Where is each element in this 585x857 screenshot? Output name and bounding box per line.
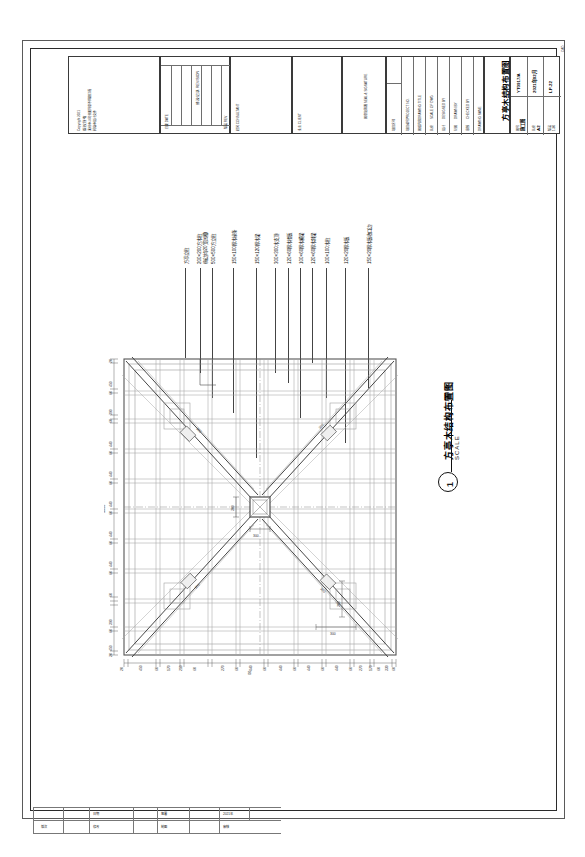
detail-number-text: 1 bbox=[445, 482, 455, 487]
revision-col-right: 版次 REV bbox=[225, 116, 228, 129]
project-row-2-cn: 图纸内容 bbox=[419, 119, 422, 131]
svg-text:170: 170 bbox=[369, 665, 373, 671]
project-row-0-cn: 项目名称 bbox=[393, 119, 396, 131]
callout-c7-label: 300×300木支顶 bbox=[273, 234, 279, 264]
svg-text:60: 60 bbox=[293, 667, 297, 671]
svg-text:440: 440 bbox=[109, 501, 113, 507]
callout-c12-label: 120×20厚木板 bbox=[343, 237, 349, 264]
titleblock-consultant-cell: 顾问 CONSULTANT bbox=[230, 56, 292, 134]
client-label: 业主 CLIENT bbox=[299, 113, 302, 131]
hip-dim-3: 300 bbox=[194, 583, 201, 590]
drawing-scale-value: 1:30 bbox=[444, 386, 450, 402]
callout-c1-label: 方亭立柱 bbox=[183, 248, 189, 264]
revision-cell-r1c3: 审核 bbox=[223, 824, 229, 829]
titleblock-drawing-name-cell: 方亭木结构布置图 bbox=[484, 56, 510, 134]
svg-text:60: 60 bbox=[263, 667, 267, 671]
callout-c4-label: 500×500方立柱 bbox=[210, 234, 216, 264]
svg-text:60: 60 bbox=[349, 667, 353, 671]
drawing-sheet: CAD Copyright 2021 版权所有 未经本公司书面同意不得翻印或 转… bbox=[0, 0, 585, 857]
svg-text:60: 60 bbox=[109, 541, 113, 545]
revision-signoff-table: 日期 签署 2021年 版次 修改 制图 审核 bbox=[33, 807, 281, 833]
svg-text:440: 440 bbox=[109, 561, 113, 567]
callout-c3-label: (每边均20宽凹槽) bbox=[202, 232, 208, 264]
meta-1-value: 施工图 bbox=[521, 119, 525, 131]
svg-text:450: 450 bbox=[139, 665, 143, 671]
meta-0-value: YT0917/A bbox=[517, 73, 521, 93]
meta-5-value: A2 bbox=[537, 125, 541, 131]
drawing-name-en: DRAWING NAME bbox=[479, 106, 482, 131]
notes-line-3: 转载本设计文件 bbox=[94, 110, 97, 131]
svg-text:60: 60 bbox=[109, 419, 113, 423]
svg-text:60: 60 bbox=[321, 667, 325, 671]
svg-text:450: 450 bbox=[109, 381, 113, 387]
project-row-5-en: DRAWN BY bbox=[455, 102, 458, 119]
svg-text:440: 440 bbox=[249, 665, 253, 671]
callout-c10-label: 120×60厚木斜梁 bbox=[310, 233, 316, 264]
svg-text:440: 440 bbox=[279, 665, 283, 671]
callout-c8-label: 120×60厚木楼板 bbox=[286, 233, 292, 264]
project-row-6-en: CHECKED BY bbox=[467, 99, 470, 119]
svg-text:390: 390 bbox=[109, 409, 113, 415]
titleblock-client-cell: 业主 CLIENT bbox=[292, 56, 342, 134]
center-dim-vertical: 300 bbox=[231, 505, 235, 511]
consultant-label: 顾问 CONSULTANT bbox=[237, 104, 240, 131]
revision-cell-r0c1: 日期 bbox=[93, 811, 99, 816]
meta-3-value: 2021年02月 bbox=[533, 70, 537, 93]
svg-text:20: 20 bbox=[109, 653, 113, 657]
project-row-1-cn: 项目编号 bbox=[407, 119, 410, 131]
meta-6-value: LP-22 bbox=[549, 81, 553, 93]
revision-cell-r1c1: 修改 bbox=[93, 824, 99, 829]
titleblock-seal-cell: 图章及签署 SEAL & SIGNATURE bbox=[342, 56, 386, 134]
revision-cell-r0c2: 签署 bbox=[161, 811, 167, 816]
project-row-3-cn: 比例 bbox=[431, 125, 434, 131]
callout-c6-label: 150×120厚木梁 bbox=[254, 234, 260, 264]
overall-dimension-y: 5000 bbox=[104, 505, 106, 513]
copyright-text: Copyright 2021 bbox=[78, 110, 81, 131]
svg-text:60: 60 bbox=[235, 667, 239, 671]
callout-c13-label: 150×20厚木板收口边 bbox=[366, 225, 372, 264]
detail-dim-a: 300 bbox=[337, 601, 341, 607]
revision-cell-r1c0: 版次 bbox=[41, 824, 47, 829]
titleblock-notes-cell: Copyright 2021 版权所有 未经本公司书面同意不得翻印或 转载本设计… bbox=[68, 56, 160, 134]
svg-text:60: 60 bbox=[109, 451, 113, 455]
hip-dim-2: 300 bbox=[318, 423, 325, 430]
revision-cell-r0c3: 2021年 bbox=[223, 811, 233, 816]
project-row-1-en: PROJECT NO. bbox=[407, 98, 410, 119]
overall-dimension-x: 5000 bbox=[248, 671, 252, 675]
svg-text:440: 440 bbox=[307, 665, 311, 671]
seal-label: 图章及签署 SEAL & SIGNATURE bbox=[365, 74, 368, 119]
svg-text:60: 60 bbox=[109, 593, 113, 597]
svg-text:60: 60 bbox=[109, 511, 113, 515]
drawing-scale-word: SCALE bbox=[454, 435, 460, 460]
svg-text:440: 440 bbox=[109, 441, 113, 447]
titleblock-meta-cell: 图号 YT0917/A 比例 2021年02月 版次 LP-22 施工图 A2 … bbox=[510, 56, 560, 134]
callout-c11-label: 100×100木柱 bbox=[324, 238, 330, 264]
svg-text:20: 20 bbox=[120, 667, 124, 671]
project-row-2-en: DRAWING TITLE bbox=[419, 95, 422, 119]
revision-header: 修改记录 REVISION bbox=[197, 71, 201, 105]
svg-text:60: 60 bbox=[109, 391, 113, 395]
svg-text:60: 60 bbox=[193, 667, 197, 671]
project-row-5-cn: 制图 bbox=[455, 125, 458, 131]
svg-text:210: 210 bbox=[179, 665, 183, 671]
callout-c9-label: 100×60厚木横梁 bbox=[298, 233, 304, 264]
detail-dim-b: 300 bbox=[330, 632, 336, 636]
svg-text:60: 60 bbox=[109, 571, 113, 575]
revision-cell-r1c2: 制图 bbox=[161, 824, 167, 829]
svg-text:60: 60 bbox=[377, 667, 381, 671]
callout-c5-label: 150×100厚木椽条 bbox=[231, 230, 237, 264]
svg-text:60: 60 bbox=[109, 629, 113, 633]
revision-col-left: 日期 DATE bbox=[166, 114, 169, 129]
svg-text:440: 440 bbox=[109, 471, 113, 477]
svg-text:440: 440 bbox=[335, 665, 339, 671]
svg-text:170: 170 bbox=[167, 665, 171, 671]
svg-text:60: 60 bbox=[392, 667, 396, 671]
svg-text:390: 390 bbox=[109, 619, 113, 625]
titleblock-revision-cell: 版次 REV 修改记录 REVISION 日期 DATE bbox=[160, 56, 230, 134]
project-row-3-en: SCALE OF DWG bbox=[431, 95, 434, 119]
svg-text:60: 60 bbox=[109, 481, 113, 485]
svg-text:330: 330 bbox=[385, 665, 389, 671]
svg-text:60: 60 bbox=[155, 667, 159, 671]
project-row-4-en: DESIGNED BY bbox=[443, 98, 446, 119]
detail-number-bubble: 1 bbox=[438, 472, 458, 492]
